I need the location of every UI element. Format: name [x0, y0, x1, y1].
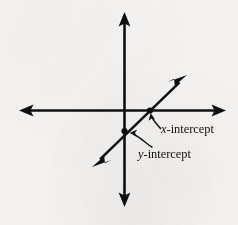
- x-intercept-leader: [149, 113, 161, 129]
- x-intercept-dot: [147, 107, 153, 113]
- x-axis: [19, 105, 226, 117]
- y-intercept-label: y-intercept: [136, 147, 192, 161]
- y-intercept-leader: [130, 130, 152, 147]
- y-intercept-dot: [121, 128, 127, 134]
- x-intercept-label: x-intercept: [160, 122, 215, 136]
- intercepts-figure: x-intercept y-intercept: [0, 0, 238, 225]
- y-intercept-label-suffix: -intercept: [144, 147, 192, 161]
- x-intercept-label-suffix: -intercept: [167, 122, 215, 136]
- coordinate-plane-diagram: x-intercept y-intercept: [0, 0, 238, 225]
